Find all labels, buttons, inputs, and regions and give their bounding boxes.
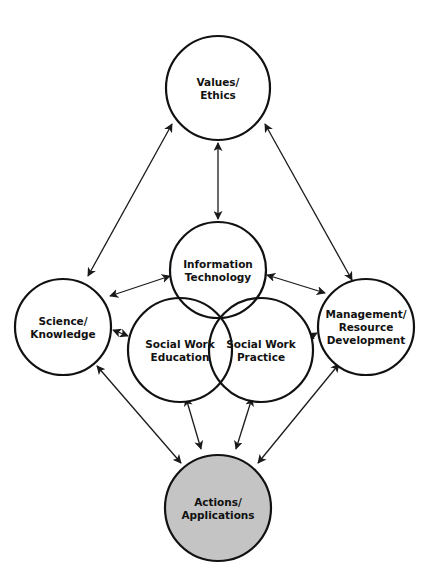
- relationship-diagram: Values/EthicsInformationTechnologyScienc…: [0, 0, 438, 579]
- double-arrow-swe-actions: [186, 398, 201, 449]
- double-arrow-values-mgmt: [265, 124, 352, 280]
- node-label-mgmt: Management/: [325, 308, 406, 320]
- node-label-swp: Social Work: [226, 338, 297, 350]
- node-label-values: Ethics: [200, 89, 236, 101]
- node-label-swp: Practice: [237, 351, 285, 363]
- node-label-it: Information: [183, 258, 253, 270]
- node-label-swe: Social Work: [145, 338, 216, 350]
- node-label-actions: Actions/: [194, 496, 242, 508]
- node-label-swe: Education: [151, 351, 210, 363]
- node-label-science: Science/: [38, 315, 87, 327]
- node-label-science: Knowledge: [30, 328, 95, 340]
- double-arrow-science-it: [110, 276, 170, 296]
- nodes-layer: Values/EthicsInformationTechnologyScienc…: [15, 36, 414, 561]
- node-label-values: Values/: [197, 76, 240, 88]
- double-arrow-values-science: [88, 124, 172, 276]
- double-arrow-swp-actions: [236, 398, 252, 449]
- node-label-it: Technology: [185, 271, 252, 283]
- double-arrow-science-swe: [113, 330, 128, 336]
- double-arrow-mgmt-it: [267, 275, 325, 293]
- node-label-actions: Applications: [181, 509, 254, 521]
- node-label-mgmt: Development: [327, 334, 406, 346]
- node-label-mgmt: Resource: [339, 321, 394, 333]
